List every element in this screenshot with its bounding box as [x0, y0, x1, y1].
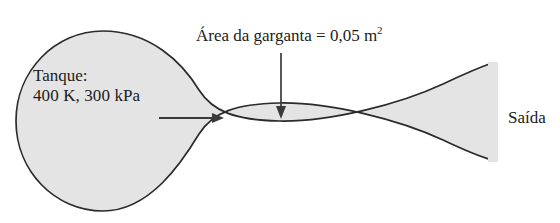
exit-label: Saída [508, 108, 546, 128]
tank-title: Tanque: [33, 66, 140, 86]
throat-area-label: Área da garganta = 0,05 m2 [196, 26, 383, 46]
tank-conditions: 400 K, 300 kPa [33, 86, 140, 106]
tank-label: Tanque: 400 K, 300 kPa [33, 66, 140, 106]
throat-area-exponent: 2 [377, 24, 383, 36]
throat-area-text: Área da garganta = 0,05 m [196, 26, 377, 45]
nozzle-body-shape [16, 31, 492, 211]
exit-plane-open-edge [488, 62, 498, 162]
throat-pointer-arrow-down-icon [276, 53, 286, 119]
nozzle-figure: Tanque: 400 K, 300 kPa Área da garganta … [0, 0, 560, 223]
